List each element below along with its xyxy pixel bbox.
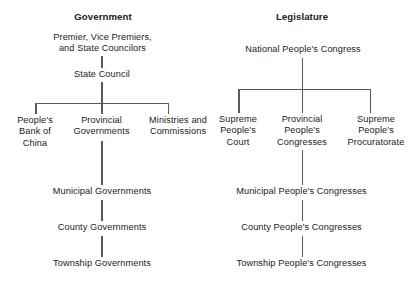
node-state-council: State Council: [52, 69, 152, 80]
node-county-peoples-congresses: County People's Congresses: [219, 222, 384, 233]
connector-leg-branch-drop-center: [302, 89, 304, 113]
node-county-governments: County Governments: [32, 222, 172, 233]
connector-leg-l1-to-bar: [302, 58, 304, 90]
connector-gov-branch-drop-left: [35, 103, 37, 114]
node-national-peoples-congress: National People's Congress: [227, 44, 379, 55]
node-municipal-governments: Municipal Governments: [32, 186, 172, 197]
node-ministries-and-commissions: Ministries and Commissions: [138, 115, 218, 138]
connector-gov-l1-to-l2: [101, 56, 103, 68]
node-municipal-peoples-congresses: Municipal People's Congresses: [219, 186, 384, 197]
node-township-peoples-congresses: Township People's Congresses: [219, 258, 384, 269]
node-township-governments: Township Governments: [32, 258, 172, 269]
connector-leg-branch-drop-left: [238, 89, 240, 113]
connector-leg-provincial-to-municipal: [302, 150, 304, 185]
node-peoples-bank-of-china: People's Bank of China: [5, 115, 65, 149]
connector-gov-municipal-to-county: [101, 200, 103, 221]
connector-gov-provincial-to-municipal: [101, 141, 103, 185]
node-provincial-governments: Provincial Governments: [63, 115, 140, 138]
node-supreme-peoples-court: Supreme People's Court: [208, 114, 268, 148]
column-header-government: Government: [53, 11, 153, 22]
node-premier-vice-premiers: Premier, Vice Premiers, and State Counci…: [22, 32, 183, 55]
node-supreme-peoples-procuratorate: Supreme People's Procuratorate: [336, 114, 416, 148]
connector-gov-branch-drop-right: [168, 103, 170, 114]
connector-leg-municipal-to-county: [302, 200, 304, 221]
connector-leg-branch-bar: [238, 89, 371, 91]
connector-leg-county-to-township: [302, 236, 304, 257]
node-provincial-peoples-congresses: Provincial People's Congresses: [266, 114, 338, 148]
connector-gov-branch-drop-center: [101, 103, 103, 114]
connector-gov-county-to-township: [101, 236, 103, 257]
connector-leg-branch-drop-right: [370, 89, 372, 113]
org-chart-diagram: Government Premier, Vice Premiers, and S…: [0, 0, 418, 291]
connector-gov-l2-to-bar: [101, 82, 103, 104]
column-header-legislature: Legislature: [252, 11, 352, 22]
